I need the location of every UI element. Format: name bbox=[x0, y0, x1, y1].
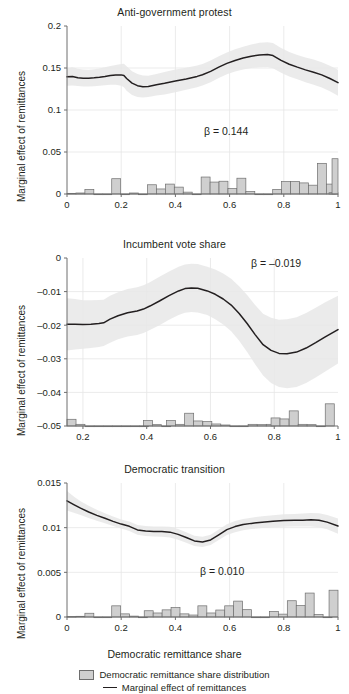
svg-text:0.2: 0.2 bbox=[76, 431, 89, 442]
svg-text:0.4: 0.4 bbox=[169, 622, 182, 633]
svg-text:–0.03: –0.03 bbox=[37, 353, 61, 364]
panel-title: Anti-government protest bbox=[0, 6, 349, 18]
legend-label: Democratic remittance share distribution bbox=[99, 669, 269, 680]
svg-text:0: 0 bbox=[56, 252, 61, 263]
svg-text:0: 0 bbox=[64, 622, 69, 633]
panel-democratic-transition: Democratic transition Marginal effect of… bbox=[0, 461, 349, 694]
bar-swatch-icon bbox=[79, 670, 94, 680]
svg-text:–0.02: –0.02 bbox=[37, 320, 61, 331]
plot-area: 00.050.10.150.200.20.40.60.81 bbox=[0, 18, 349, 228]
plot-area: –0.05–0.04–0.03–0.02–0.0100.20.40.60.81 bbox=[0, 250, 349, 460]
svg-text:0.015: 0.015 bbox=[37, 477, 61, 488]
beta-annotation: β = –0.019 bbox=[251, 257, 301, 269]
svg-text:–0.04: –0.04 bbox=[37, 387, 61, 398]
beta-annotation: β = 0.010 bbox=[200, 565, 244, 577]
svg-text:0.6: 0.6 bbox=[223, 622, 236, 633]
svg-text:0.4: 0.4 bbox=[169, 199, 182, 210]
svg-text:1: 1 bbox=[335, 199, 340, 210]
svg-text:1: 1 bbox=[335, 431, 340, 442]
svg-text:1: 1 bbox=[335, 622, 340, 633]
svg-text:0.2: 0.2 bbox=[48, 20, 61, 31]
svg-text:0.4: 0.4 bbox=[140, 431, 153, 442]
svg-text:0.2: 0.2 bbox=[115, 622, 128, 633]
panel-incumbent-vote-share: Incumbent vote share Marginal effect of … bbox=[0, 232, 349, 464]
svg-text:–0.05: –0.05 bbox=[37, 420, 61, 431]
svg-text:0.005: 0.005 bbox=[37, 567, 61, 578]
panel-anti-government-protest: Anti-government protest Marginal effect … bbox=[0, 0, 349, 232]
svg-text:0: 0 bbox=[64, 199, 69, 210]
svg-text:0.8: 0.8 bbox=[268, 431, 281, 442]
svg-text:0.15: 0.15 bbox=[43, 62, 62, 73]
legend-item-histogram: Democratic remittance share distribution bbox=[79, 669, 269, 680]
legend-label: Marginal effect of remittances bbox=[122, 682, 246, 693]
x-axis-label: Democratic remittance share bbox=[0, 648, 349, 660]
svg-text:0: 0 bbox=[56, 611, 61, 622]
svg-text:0.2: 0.2 bbox=[115, 199, 128, 210]
panel-title: Democratic transition bbox=[0, 463, 349, 475]
svg-text:0.6: 0.6 bbox=[204, 431, 217, 442]
figure-root: Anti-government protest Marginal effect … bbox=[0, 0, 349, 694]
svg-text:0.8: 0.8 bbox=[277, 199, 290, 210]
svg-text:0.8: 0.8 bbox=[277, 622, 290, 633]
svg-text:0.1: 0.1 bbox=[48, 104, 61, 115]
svg-text:0.05: 0.05 bbox=[43, 146, 62, 157]
legend: Democratic remittance share distribution… bbox=[0, 669, 349, 693]
beta-annotation: β = 0.144 bbox=[204, 125, 248, 137]
legend-item-line: Marginal effect of remittances bbox=[103, 682, 246, 693]
svg-text:0.01: 0.01 bbox=[43, 522, 62, 533]
svg-text:0.6: 0.6 bbox=[223, 199, 236, 210]
svg-text:0: 0 bbox=[56, 188, 61, 199]
line-swatch-icon bbox=[103, 687, 117, 688]
plot-area: 00.0050.010.01500.20.40.60.81 bbox=[0, 475, 349, 645]
panel-title: Incumbent vote share bbox=[0, 238, 349, 250]
svg-text:–0.01: –0.01 bbox=[37, 286, 61, 297]
